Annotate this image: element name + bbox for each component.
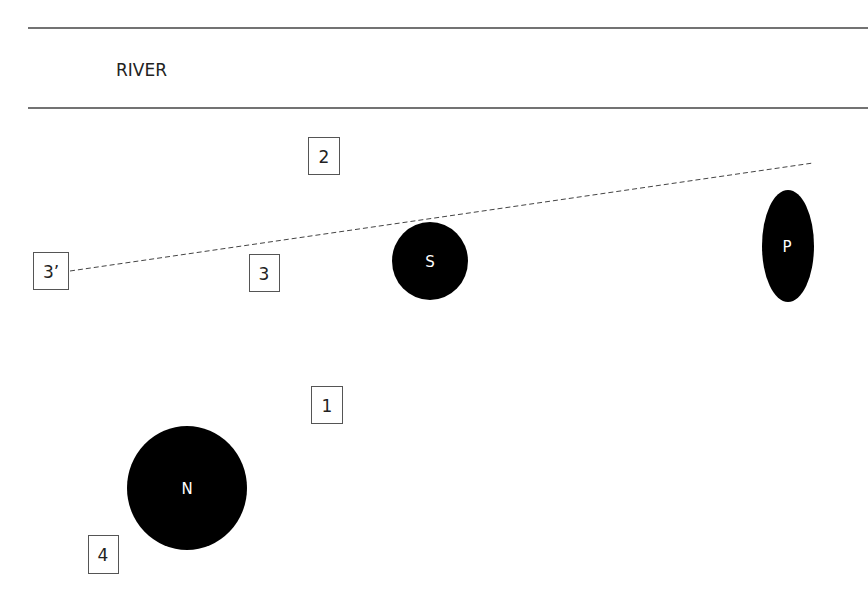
body-s: S [392,222,468,300]
body-n-label: N [181,480,192,498]
marker-1: 1 [312,387,343,424]
body-p: P [762,190,814,302]
marker-3: 3 [250,255,280,292]
marker-3-label: 3 [259,264,270,284]
marker-3-prime: 3’ [34,253,69,290]
marker-4-label: 4 [98,545,109,565]
river-label: RIVER [116,60,167,80]
body-p-label: P [782,238,791,256]
marker-2: 2 [309,138,340,175]
marker-2-label: 2 [319,147,330,167]
diagram-canvas: RIVER 2 3’ 3 S P 1 N 4 [0,0,868,600]
marker-1-label: 1 [322,396,333,416]
marker-4: 4 [89,536,119,574]
marker-3-prime-label: 3’ [43,262,59,282]
body-n: N [127,426,247,550]
body-s-label: S [425,253,435,271]
